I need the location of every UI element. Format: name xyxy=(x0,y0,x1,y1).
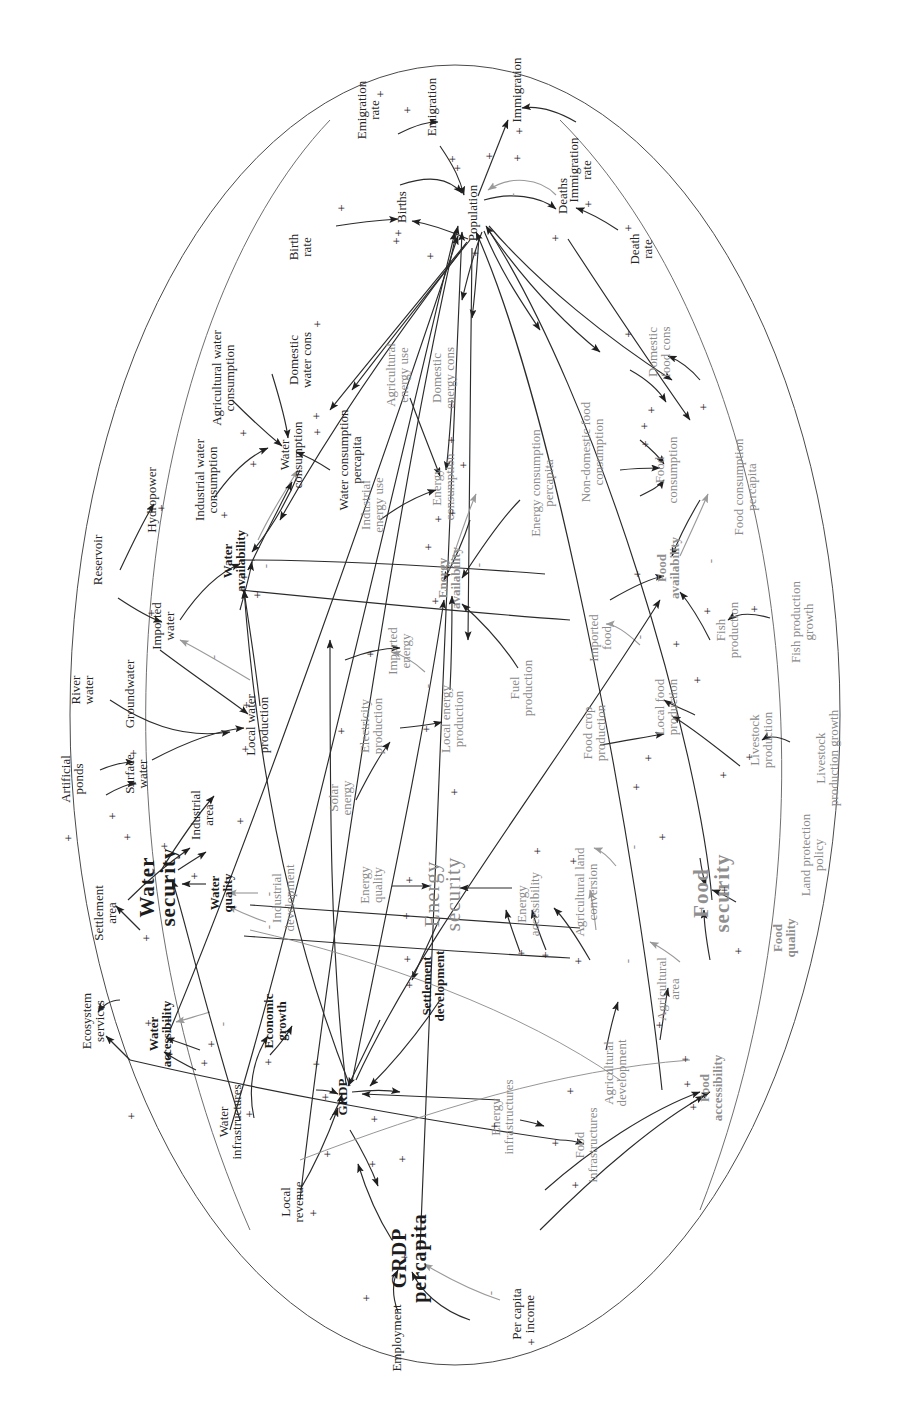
node-fuel-production[interactable]: Fuel production xyxy=(508,660,535,716)
node-ecosystem-services[interactable]: Ecosystem services xyxy=(80,993,107,1049)
node-local-revenue[interactable]: Local revenue xyxy=(279,1181,306,1222)
node-agricultural-water-consumption[interactable]: Agricultural water consumption xyxy=(210,330,237,426)
polarity-plus: + xyxy=(511,154,524,161)
node-immigration[interactable]: Immigration xyxy=(510,58,523,123)
node-fish-production[interactable]: Fish production xyxy=(714,602,741,658)
polarity-plus: + xyxy=(240,701,253,708)
node-domestic-food-cons[interactable]: Domestic food cons xyxy=(646,327,673,378)
polarity-plus: + xyxy=(631,570,644,577)
node-employment[interactable]: Employment xyxy=(390,1304,403,1371)
polarity-plus: + xyxy=(262,1058,275,1065)
node-imported-energy[interactable]: Imported energy xyxy=(386,627,413,675)
node-electricity-production[interactable]: Electricity production xyxy=(358,698,385,754)
polarity-plus: + xyxy=(515,949,528,956)
polarity-plus: + xyxy=(106,812,119,819)
polarity-plus: + xyxy=(446,509,459,516)
node-deaths[interactable]: Deaths xyxy=(556,178,569,214)
polarity-plus: + xyxy=(691,676,704,683)
polarity-plus: + xyxy=(451,164,464,171)
node-agricultural-development[interactable]: Agricultural development xyxy=(602,1039,629,1106)
node-per-capita-income[interactable]: Per capita income xyxy=(510,1288,537,1340)
node-settlement-area[interactable]: Settlement area xyxy=(92,885,119,941)
node-water-quality[interactable]: Water quality xyxy=(208,873,235,912)
polarity-plus: + xyxy=(62,834,75,841)
node-solar-energy[interactable]: Solar energy xyxy=(327,780,354,815)
node-artificial-ponds[interactable]: Artificial ponds xyxy=(59,755,86,803)
polarity-plus: + xyxy=(335,727,348,734)
node-death-rate[interactable]: Death rate xyxy=(628,233,655,264)
polarity-plus: + xyxy=(549,234,562,241)
node-food-consumption-percapita[interactable]: Food consumption percapita xyxy=(732,438,759,535)
node-local-food-production[interactable]: Local food production xyxy=(653,679,680,736)
polarity-plus: + xyxy=(622,330,635,337)
node-industrial-development[interactable]: Industrial development xyxy=(270,864,297,931)
polarity-plus: + xyxy=(642,754,655,761)
polarity-plus: + xyxy=(243,1110,256,1117)
polarity-minus: - xyxy=(627,845,640,849)
node-economic-growth[interactable]: Economic growth xyxy=(262,994,289,1049)
polarity-minus: - xyxy=(262,892,275,896)
node-energy-quality[interactable]: Energy quality xyxy=(358,866,385,903)
node-groundwater[interactable]: Groundwater xyxy=(123,660,136,729)
node-agricultural-energy-use[interactable]: Agricultural energy use xyxy=(384,343,411,407)
node-local-energy-production[interactable]: Local energy production xyxy=(439,685,466,753)
node-immigration-rate[interactable]: Immigration rate xyxy=(567,138,594,203)
node-water-consumption[interactable]: Water consumption xyxy=(278,421,305,488)
polarity-plus: + xyxy=(701,607,714,614)
node-domestic-energy-cons[interactable]: Domestic energy cons xyxy=(430,347,457,409)
polarity-minus: - xyxy=(262,925,275,929)
polarity-plus: + xyxy=(525,1338,538,1345)
node-industrial-area[interactable]: Industrial area xyxy=(189,790,216,840)
polarity-plus: + xyxy=(403,876,416,883)
polarity-plus: + xyxy=(653,1021,666,1028)
node-settlement-development[interactable]: Settlement development xyxy=(420,951,447,1022)
polarity-plus: + xyxy=(401,106,414,113)
node-non-domestic-food-consumption[interactable]: Non-domestic food consumption xyxy=(579,402,606,503)
node-industrial-energy-use[interactable]: Industrial energy use xyxy=(359,477,386,533)
node-energy-accessibility[interactable]: Energy accessibility xyxy=(515,872,542,936)
polarity-minus: - xyxy=(704,559,717,563)
node-land-protection-policy[interactable]: Land protection policy xyxy=(799,814,826,897)
node-food-availability[interactable]: Food availability xyxy=(655,537,682,599)
node-domestic-water-cons[interactable]: Domestic water cons xyxy=(287,332,314,388)
node-water-availability[interactable]: Water availability xyxy=(221,530,248,592)
polarity-plus: + xyxy=(564,1087,577,1094)
node-grdp[interactable]: GRDP xyxy=(336,1079,349,1116)
polarity-plus: + xyxy=(732,947,745,954)
node-surface-water[interactable]: Surface water xyxy=(123,754,150,794)
node-water-accessibility[interactable]: Water accessibility xyxy=(147,1001,174,1067)
node-population[interactable]: Population xyxy=(466,185,479,241)
node-fish-production-growth[interactable]: Fish production growth xyxy=(789,581,816,663)
node-livestock-production-growth[interactable]: Livestock production growth xyxy=(814,710,841,806)
polarity-plus: + xyxy=(205,1040,218,1047)
polarity-plus: + xyxy=(488,1122,501,1129)
polarity-plus: + xyxy=(321,1150,334,1157)
node-food-infrastructures[interactable]: Food infrastructures xyxy=(573,1107,600,1182)
node-hydropower[interactable]: Hydropower xyxy=(145,467,158,533)
polarity-plus: + xyxy=(401,955,414,962)
polarity-plus: + xyxy=(446,155,459,162)
node-reservoir[interactable]: Reservoir xyxy=(91,535,104,586)
node-imported-food[interactable]: Imported food xyxy=(587,614,614,662)
node-births[interactable]: Births xyxy=(395,191,408,223)
node-birth-rate[interactable]: Birth rate xyxy=(287,234,314,261)
node-energy-infrastructures[interactable]: Energy infrastructures xyxy=(489,1079,516,1154)
polarity-plus: + xyxy=(390,237,403,244)
polarity-plus: + xyxy=(125,1112,138,1119)
node-energy-consumption-percapita[interactable]: Energy consumption percapita xyxy=(529,429,556,537)
node-food-quality[interactable]: Food quality xyxy=(771,918,798,957)
node-agricultural-area[interactable]: Agricultural area xyxy=(655,957,682,1021)
node-river-water[interactable]: River water xyxy=(69,676,96,705)
node-food-consumption[interactable]: Food consumption xyxy=(653,436,680,503)
node-emigration[interactable]: Emigration xyxy=(425,78,438,137)
node-water-security[interactable]: Water security xyxy=(137,847,180,926)
node-food-accessibility[interactable]: Food accessibility xyxy=(698,1055,725,1121)
node-industrial-water-consumption[interactable]: Industrial water consumption xyxy=(193,439,220,521)
polarity-plus: + xyxy=(622,224,635,231)
node-water-infrastructures[interactable]: Water infrastructures xyxy=(217,1084,244,1159)
polarity-plus: + xyxy=(374,90,387,97)
node-energy-security[interactable]: Energy security xyxy=(422,857,465,931)
node-food-crop-production[interactable]: Food crop production xyxy=(581,705,608,761)
polarity-minus: - xyxy=(259,564,272,568)
polarity-plus: + xyxy=(251,591,264,598)
